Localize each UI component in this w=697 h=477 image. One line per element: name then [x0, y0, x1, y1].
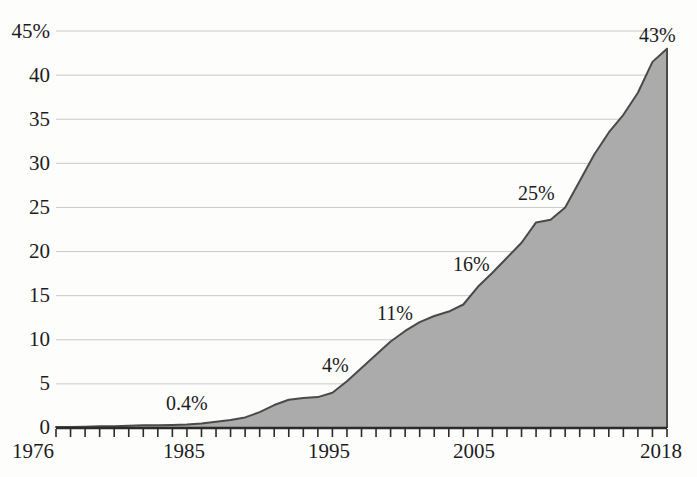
data-point-label: 43%	[639, 25, 676, 45]
y-axis-tick-label: 25	[0, 197, 50, 218]
y-axis-tick-label: 45%	[0, 21, 50, 42]
x-axis-tick-label: 1985	[163, 441, 205, 462]
data-point-label: 25%	[518, 183, 555, 203]
area-fill	[56, 49, 667, 428]
x-axis-tick-marks	[56, 429, 667, 437]
x-axis-tick-label: 2005	[453, 441, 495, 462]
area-chart-plot	[0, 0, 697, 477]
y-axis-tick-label: 15	[0, 285, 50, 306]
y-axis-tick-label: 0	[0, 417, 50, 438]
x-axis-tick-label: 1995	[308, 441, 350, 462]
y-axis-tick-label: 10	[0, 329, 50, 350]
y-axis-tick-label: 35	[0, 109, 50, 130]
area-series	[56, 49, 667, 428]
chart-container: 45%4035302520151050 19761985199520052018…	[0, 0, 697, 477]
x-axis-tick-label: 2018	[640, 441, 682, 462]
y-axis-tick-label: 5	[0, 373, 50, 394]
data-point-label: 11%	[377, 303, 413, 323]
data-point-label: 4%	[322, 355, 349, 375]
x-axis-tick-label: 1976	[12, 441, 54, 462]
y-axis-tick-label: 40	[0, 65, 50, 86]
data-point-label: 0.4%	[166, 393, 208, 413]
y-axis-tick-label: 30	[0, 153, 50, 174]
data-point-label: 16%	[453, 254, 490, 274]
y-axis-tick-label: 20	[0, 241, 50, 262]
